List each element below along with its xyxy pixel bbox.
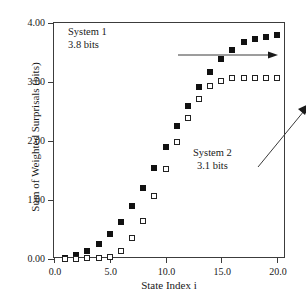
data-point-2-19 (263, 75, 269, 81)
data-point-2-6 (118, 248, 124, 254)
data-point-1-9 (151, 165, 157, 171)
y-tick-label: 1.00 (28, 194, 46, 206)
data-point-1-13 (196, 84, 202, 90)
y-tick-label: 2.00 (28, 135, 46, 147)
y-tick-label: 4.00 (28, 17, 46, 29)
x-axis-title: State Index i (53, 279, 285, 291)
system-2-arrow (254, 103, 306, 169)
data-point-1-17 (241, 39, 247, 45)
system-1-annotation: System 1 3.8 bits (68, 25, 107, 51)
y-tick: 4.00 (48, 23, 54, 24)
data-point-2-3 (84, 255, 90, 261)
data-point-2-4 (96, 255, 102, 261)
data-point-1-4 (96, 241, 102, 247)
data-point-2-11 (174, 139, 180, 145)
x-tick: 0.0 (54, 257, 55, 263)
data-point-2-9 (151, 193, 157, 199)
y-tick-label: 0.00 (28, 253, 46, 265)
data-point-1-11 (174, 123, 180, 129)
scatter-chart-figure: Sum of Weighted Surprisals (bits) State … (0, 0, 306, 304)
data-point-2-5 (107, 254, 113, 260)
data-point-2-10 (163, 166, 169, 172)
system-1-annotation-line1: System 1 (68, 26, 107, 37)
data-point-2-15 (218, 78, 224, 84)
system-1-arrow (178, 49, 278, 61)
data-point-1-8 (140, 185, 146, 191)
y-tick: 2.00 (48, 141, 54, 142)
data-point-1-3 (84, 248, 90, 254)
x-tick: 20.0 (277, 257, 278, 263)
data-point-1-19 (263, 34, 269, 40)
x-tick-label: 5.0 (105, 266, 118, 278)
x-tick: 15.0 (221, 257, 222, 263)
data-point-2-12 (185, 115, 191, 121)
y-tick-label: 3.00 (28, 76, 46, 88)
data-point-1-20 (274, 32, 280, 38)
x-tick-label: 0.0 (49, 266, 62, 278)
plot-area: 0.001.002.003.004.00 0.05.010.015.020.0 (53, 22, 285, 258)
system-1-annotation-line2: 3.8 bits (68, 38, 107, 51)
data-point-1-14 (207, 69, 213, 75)
x-tick-label: 20.0 (269, 266, 287, 278)
data-point-2-13 (196, 96, 202, 102)
data-point-1-12 (185, 103, 191, 109)
x-tick-label: 15.0 (214, 266, 232, 278)
data-point-1-5 (107, 231, 113, 237)
data-point-2-8 (140, 218, 146, 224)
data-point-2-18 (252, 75, 258, 81)
y-tick: 1.00 (48, 200, 54, 201)
x-tick-label: 10.0 (158, 266, 176, 278)
data-point-2-17 (241, 75, 247, 81)
data-point-2-2 (73, 256, 79, 262)
data-point-1-10 (163, 144, 169, 150)
data-point-1-7 (129, 203, 135, 209)
system-2-annotation-line2: 3.1 bits (193, 159, 232, 172)
data-point-1-6 (118, 219, 124, 225)
y-tick: 3.00 (48, 82, 54, 83)
data-point-2-1 (62, 256, 68, 262)
system-2-annotation-line1: System 2 (193, 147, 232, 158)
data-point-2-20 (274, 75, 280, 81)
x-tick: 10.0 (166, 257, 167, 263)
data-point-2-14 (207, 83, 213, 89)
data-point-2-16 (229, 75, 235, 81)
data-point-2-7 (129, 235, 135, 241)
data-point-1-18 (252, 36, 258, 42)
system-2-annotation: System 2 3.1 bits (193, 146, 232, 172)
